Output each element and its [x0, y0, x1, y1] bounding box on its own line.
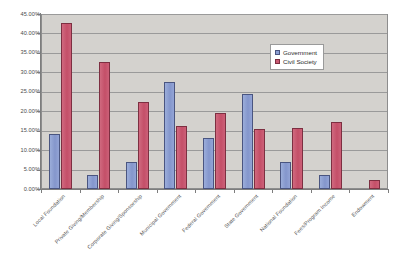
- x-axis-tick-mark: [157, 189, 158, 193]
- bar-civil-society: [138, 102, 149, 189]
- x-axis-labels: Local FoundationPrivate Giving/Membershi…: [0, 189, 407, 267]
- bar-government: [280, 162, 291, 189]
- x-axis-label: National Foundation: [258, 193, 298, 233]
- y-axis-tick-mark: [37, 131, 41, 132]
- y-axis-tick-label: 30.00%: [2, 69, 40, 75]
- y-axis-tick-label: 20.00%: [2, 108, 40, 114]
- x-axis-label: State Government: [223, 193, 259, 229]
- bar-government: [242, 94, 253, 189]
- y-axis-tick-label: 45.00%: [2, 11, 40, 17]
- bar-civil-society: [331, 122, 342, 189]
- y-axis-tick-mark: [37, 170, 41, 171]
- y-axis-tick-mark: [37, 111, 41, 112]
- x-axis-tick-mark: [195, 189, 196, 193]
- y-axis-tick-mark: [37, 14, 41, 15]
- y-axis-tick-label: 5.00%: [2, 166, 40, 172]
- x-axis-tick-mark: [234, 189, 235, 193]
- legend-label: Civil Society: [283, 57, 317, 66]
- x-axis-tick-mark: [349, 189, 350, 193]
- legend-swatch-icon: [275, 50, 280, 55]
- y-axis-tick-mark: [37, 33, 41, 34]
- x-axis-tick-mark: [388, 189, 389, 193]
- x-axis-label: Local Foundation: [32, 193, 67, 228]
- x-axis-label: Municipal Government: [138, 193, 182, 237]
- y-axis-tick-label: 40.00%: [2, 30, 40, 36]
- bar-civil-society: [61, 23, 72, 189]
- y-axis-tick-mark: [37, 72, 41, 73]
- y-axis-tick-mark: [37, 92, 41, 93]
- legend-label: Government: [283, 48, 317, 57]
- bar-government: [126, 162, 137, 189]
- chart-legend: GovernmentCivil Society: [270, 44, 324, 70]
- gridline: [42, 53, 387, 54]
- bar-civil-society: [292, 128, 303, 189]
- legend-swatch-icon: [275, 59, 280, 64]
- y-axis-tick-label: 25.00%: [2, 88, 40, 94]
- x-axis-label: Fees/Program Income: [293, 193, 336, 236]
- bar-government: [49, 134, 60, 189]
- x-axis-tick-mark: [41, 189, 42, 193]
- x-axis-tick-mark: [80, 189, 81, 193]
- gridline: [42, 14, 387, 15]
- legend-item: Civil Society: [275, 57, 317, 66]
- y-axis-tick-mark: [37, 53, 41, 54]
- y-axis-tick-label: 15.00%: [2, 127, 40, 133]
- bar-civil-society: [215, 113, 226, 189]
- chart-figure: 0.00%5.00%10.00%15.00%20.00%25.00%30.00%…: [0, 0, 407, 267]
- x-axis-tick-mark: [118, 189, 119, 193]
- y-axis-tick-label: 10.00%: [2, 147, 40, 153]
- bar-civil-society: [99, 62, 110, 189]
- gridline: [42, 33, 387, 34]
- bar-government: [164, 82, 175, 189]
- bar-civil-society: [254, 129, 265, 189]
- legend-item: Government: [275, 48, 317, 57]
- gridline: [42, 72, 387, 73]
- bar-government: [319, 175, 330, 189]
- y-axis-line: [40, 13, 41, 190]
- x-axis-label: Endowment: [350, 193, 375, 218]
- gridline: [42, 92, 387, 93]
- bar-civil-society: [176, 126, 187, 189]
- bar-government: [87, 175, 98, 189]
- y-axis-tick-label: 35.00%: [2, 49, 40, 55]
- x-axis-tick-mark: [272, 189, 273, 193]
- x-axis-label: Federal Government: [180, 193, 220, 233]
- bar-government: [203, 138, 214, 189]
- bar-civil-society: [369, 180, 380, 189]
- y-axis-tick-mark: [37, 150, 41, 151]
- x-axis-tick-mark: [311, 189, 312, 193]
